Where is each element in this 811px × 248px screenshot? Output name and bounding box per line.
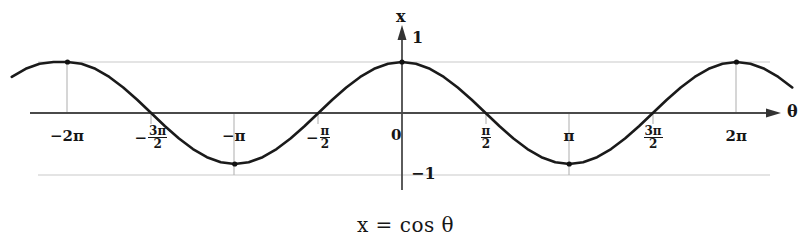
tick-neg-pi-label: −π <box>222 129 246 144</box>
fraction-numerator: π <box>320 125 331 137</box>
marker-trough-neg-pi <box>232 161 237 166</box>
cosine-figure: x θ 1 −1 −2π−3π2−π−π20π2π3π22π x = cos θ <box>0 0 811 248</box>
y-axis-arrowhead <box>398 25 407 40</box>
tick-neg-3pi-over-2-label: −3π2 <box>135 126 168 151</box>
minus-sign: − <box>135 131 149 146</box>
minus-sign: − <box>306 131 320 146</box>
tick-neg-2pi-label: −2π <box>50 129 84 144</box>
marker-peak-neg-2pi <box>65 59 70 64</box>
y-value-label-minus-one: −1 <box>411 166 436 182</box>
fraction-denominator: 2 <box>644 137 663 150</box>
fraction-numerator: π <box>481 125 492 137</box>
x-axis-label: θ <box>787 104 798 120</box>
fraction-numerator: 3π <box>644 125 663 137</box>
tick-pi-label: π <box>564 129 575 144</box>
y-value-label-one: 1 <box>412 30 423 46</box>
figure-caption: x = cos θ <box>0 213 811 237</box>
tick-2pi-label: 2π <box>726 129 747 144</box>
tick-3pi-over-2-label: 3π2 <box>644 126 663 151</box>
y-axis-label: x <box>396 9 406 25</box>
marker-trough-pi <box>567 161 572 166</box>
marker-peak-2pi <box>734 59 739 64</box>
fraction-numerator: 3π <box>148 125 167 137</box>
fraction-denominator: 2 <box>320 137 331 150</box>
fraction: 3π2 <box>148 125 167 150</box>
x-axis-arrowhead <box>766 109 781 118</box>
fraction: 3π2 <box>644 125 663 150</box>
tick-neg-pi-over-2-label: −π2 <box>306 126 330 151</box>
plot-canvas <box>0 0 811 248</box>
fraction: π2 <box>320 125 331 150</box>
tick-pi-over-2-label: π2 <box>481 126 492 151</box>
marker-peak-zero <box>399 59 404 64</box>
fraction-denominator: 2 <box>148 137 167 150</box>
fraction: π2 <box>481 125 492 150</box>
fraction-denominator: 2 <box>481 137 492 150</box>
tick-zero-label: 0 <box>391 128 401 143</box>
